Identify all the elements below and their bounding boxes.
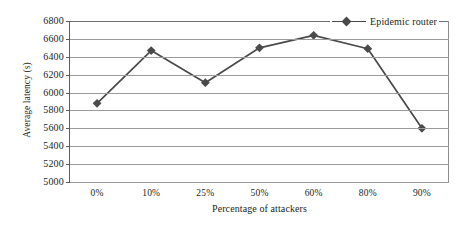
gridline (70, 57, 449, 58)
legend-label-epidemic-router: Epidemic router (370, 16, 437, 27)
chart-legend: Epidemic router (330, 13, 439, 29)
x-axis-tick-label: 60% (289, 188, 339, 198)
x-axis-tick-label: 10% (126, 188, 176, 198)
gridline (70, 182, 449, 183)
y-axis-tick-label: 5600 (0, 123, 64, 133)
gridline (70, 164, 449, 165)
x-axis-tick-label: 50% (235, 188, 285, 198)
x-axis-tick-label: 25% (180, 188, 230, 198)
plot-area (70, 21, 449, 182)
y-axis-tick-label: 6400 (0, 52, 64, 62)
y-axis-tick-label: 5400 (0, 141, 64, 151)
gridline (70, 39, 449, 40)
x-axis-title: Percentage of attackers (70, 203, 449, 214)
y-axis-tick-label: 5000 (0, 177, 64, 187)
y-axis-tick-label: 6600 (0, 34, 64, 44)
gridline (70, 93, 449, 94)
plot-frame-right (448, 21, 449, 182)
legend-line-marker-icon (332, 16, 366, 26)
y-axis-tick-label: 6200 (0, 70, 64, 80)
gridline (70, 146, 449, 147)
x-axis-tick-label: 80% (343, 188, 393, 198)
y-axis-tick-label: 6800 (0, 16, 64, 26)
y-axis-tick-label: 5800 (0, 105, 64, 115)
gridline (70, 128, 449, 129)
gridline (70, 110, 449, 111)
y-axis-tick-label: 5200 (0, 159, 64, 169)
y-axis-title: Average latency (s) (22, 20, 32, 180)
x-axis-tick-label: 0% (72, 188, 122, 198)
gridline (70, 75, 449, 76)
y-axis-tick-label: 6000 (0, 88, 64, 98)
series-epidemic-router (70, 21, 449, 182)
chart-figure: Average latency (s) 50005200540056005800… (0, 0, 468, 228)
x-axis-tick-label: 90% (397, 188, 447, 198)
